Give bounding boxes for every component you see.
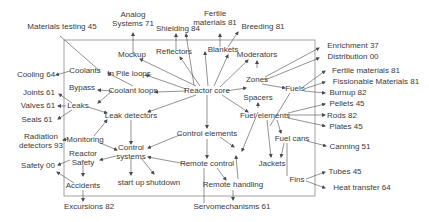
node-pellets: Pellets 45 (329, 99, 365, 108)
node-label-line: Safety 00 (21, 161, 55, 170)
node-label-line: Pellets 45 (329, 99, 365, 108)
node-fuels: Fuels (285, 84, 305, 93)
node-coolant-loops: Coolant loops (109, 86, 158, 95)
node-fertile-materials-top: Fertilematerials 81 (193, 9, 237, 27)
node-fissionable-materials: Fissionable Materials 81 (333, 77, 420, 86)
edge-arrow (265, 58, 319, 80)
edge-arrow (155, 91, 186, 92)
edge-arrow (94, 120, 107, 136)
node-valves: Valves 61 (21, 101, 56, 110)
edge-arrow (306, 181, 325, 188)
node-label-line: Distribution 00 (327, 52, 379, 61)
node-label-line: Moderators (237, 50, 277, 59)
node-label-line: Heat transfer 64 (333, 183, 391, 192)
node-label-line: Burnup 82 (330, 88, 367, 97)
reactor-concept-map: Reactor coreMockupReflectorsBlanketsMode… (0, 0, 429, 222)
edge-arrow (220, 137, 234, 147)
edge-arrow (217, 168, 226, 180)
node-joints: Joints 61 (23, 88, 56, 97)
node-label-line: Analog (121, 10, 146, 19)
node-accidents: Accidents (66, 181, 101, 190)
node-label-line: Leak detectors (105, 111, 157, 120)
edge-arrow (304, 82, 325, 89)
node-reactor-core: Reactor core (184, 86, 230, 95)
node-start-up: start up (118, 178, 145, 187)
node-enrichment: Enrichment 37 (327, 41, 379, 50)
node-shutdown: shutdown (146, 178, 180, 187)
node-control-elements: Control elements (177, 129, 237, 138)
node-safety: Safety 00 (21, 161, 55, 170)
node-label-line: shutdown (146, 178, 180, 187)
node-remote-control: Remote control (180, 159, 234, 168)
node-materials-testing: Materials testing 45 (27, 22, 97, 31)
edge-arrow (186, 34, 194, 85)
node-label-line: Fuel elements (240, 111, 290, 120)
node-label-line: Plates 45 (329, 122, 363, 131)
node-label-line: Coolant loops (109, 86, 158, 95)
node-label-line: Leaks (67, 101, 88, 110)
nodes-layer: Reactor coreMockupReflectorsBlanketsMode… (17, 9, 420, 212)
node-label-line: Zones (246, 75, 268, 84)
edge-arrow (281, 143, 284, 157)
node-label-line: Accidents (66, 181, 101, 190)
node-fuel-elements: Fuel elements (240, 111, 290, 120)
edge-arrow (303, 71, 325, 87)
node-label-line: systems (116, 152, 145, 161)
node-excursions: Excursions 82 (64, 202, 115, 211)
node-label-line: Blankets (208, 45, 239, 54)
node-seals: Seals 61 (21, 115, 53, 124)
node-servomechanisms: Servomechanisms 61 (194, 202, 271, 211)
node-label-line: Remote control (180, 159, 234, 168)
node-label-line: Materials testing 45 (27, 22, 97, 31)
node-moderators: Moderators (237, 50, 277, 59)
edge-arrow (288, 104, 325, 113)
node-label-line: materials 81 (193, 18, 237, 27)
node-label-line: Canning 51 (330, 142, 371, 151)
node-label-line: Control (118, 143, 144, 152)
edge-arrow (288, 118, 325, 126)
node-label-line: Bypass (69, 83, 95, 92)
node-label-line: Fins (289, 175, 304, 184)
node-reflectors: Reflectors (156, 47, 192, 56)
node-zones: Zones (246, 75, 268, 84)
node-label-line: Cooling 64 (17, 70, 56, 79)
edge-arrow (306, 172, 325, 179)
edge-arrow (304, 91, 325, 93)
node-leaks: Leaks (67, 101, 88, 110)
node-label-line: Fuels (285, 84, 305, 93)
node-label-line: Control elements (177, 129, 237, 138)
node-plates: Plates 45 (329, 122, 363, 131)
node-burnup: Burnup 82 (330, 88, 367, 97)
edge-arrow (262, 84, 285, 88)
node-monitoring: Monitoring (66, 135, 103, 144)
node-in-pile-loops: In Pile loops (107, 69, 151, 78)
node-heat-transfer: Heat transfer 64 (333, 183, 391, 192)
node-label-line: Fertile (204, 9, 227, 18)
node-label-line: Joints 61 (23, 88, 56, 97)
node-blankets: Blankets (208, 45, 239, 54)
node-bypass: Bypass (69, 83, 95, 92)
edge-arrow (307, 141, 326, 146)
node-control-systems: Controlsystems (116, 143, 145, 161)
node-label-line: Fissionable Materials 81 (333, 77, 420, 86)
node-analog-systems: AnalogSystems 71 (112, 10, 154, 28)
edge-arrow (205, 52, 208, 86)
node-breeding: Breeding 81 (241, 22, 285, 31)
node-leak-detectors: Leak detectors (105, 111, 157, 120)
node-label-line: Enrichment 37 (327, 41, 379, 50)
node-label-line: Tubes 45 (328, 167, 362, 176)
node-radiation-detectors: Radiationdetectors 93 (19, 132, 64, 150)
node-label-line: detectors 93 (19, 141, 64, 150)
edge-arrow (236, 156, 238, 179)
node-label-line: Remote handling (203, 180, 263, 189)
node-label-line: Servomechanisms 61 (194, 202, 271, 211)
node-fertile-materials-right: Fertile materials 81 (332, 66, 401, 75)
node-label-line: Reflectors (156, 47, 192, 56)
node-label-line: Breeding 81 (241, 22, 285, 31)
edge-arrow (100, 156, 116, 160)
edge-arrow (277, 120, 281, 133)
node-label-line: Coolants (69, 66, 101, 75)
node-spacers: Spacers (243, 93, 272, 102)
node-distribution: Distribution 00 (327, 52, 379, 61)
node-label-line: Valves 61 (21, 101, 56, 110)
